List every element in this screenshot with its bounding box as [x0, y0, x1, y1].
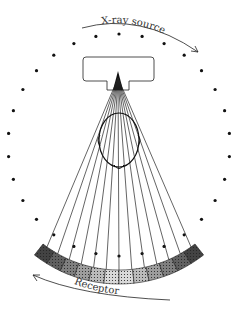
ring-dot — [228, 132, 231, 135]
xray-ray — [118, 78, 144, 267]
ring-dot — [21, 88, 24, 91]
ring-dot — [94, 252, 97, 255]
xray-ray — [118, 78, 132, 269]
ring-dot — [223, 178, 226, 181]
ct-diagram: X-ray source Receptor — [0, 0, 239, 309]
ring-dot — [214, 88, 217, 91]
patient-head — [98, 113, 140, 169]
ring-dot — [163, 42, 166, 45]
source-label: X-ray source — [101, 14, 168, 36]
ring-dot — [94, 35, 97, 38]
ring-dot — [72, 42, 75, 45]
xray-ray — [118, 78, 169, 260]
ring-dot — [12, 178, 15, 181]
ring-dot — [12, 109, 15, 112]
ring-dot — [228, 155, 231, 158]
ring-dot — [52, 54, 55, 57]
ring-dot — [35, 218, 38, 221]
ring-dot — [200, 218, 203, 221]
ring-dot — [223, 109, 226, 112]
ring-dot — [214, 199, 217, 202]
xray-ray — [69, 78, 118, 260]
ring-dot — [7, 132, 10, 135]
ring-dot — [7, 155, 10, 158]
xray-ray — [118, 78, 119, 270]
receptor-segment-texture — [104, 269, 119, 284]
ring-dot — [141, 35, 144, 38]
ring-dot — [183, 54, 186, 57]
xray-ray — [118, 78, 191, 247]
ring-dot — [200, 69, 203, 72]
ring-dot — [21, 199, 24, 202]
receptor-arrowhead-icon — [33, 275, 40, 281]
ring-dot — [117, 32, 120, 35]
receptor-segment-texture — [119, 269, 134, 284]
xray-beam — [47, 78, 191, 270]
ring-dot — [35, 69, 38, 72]
